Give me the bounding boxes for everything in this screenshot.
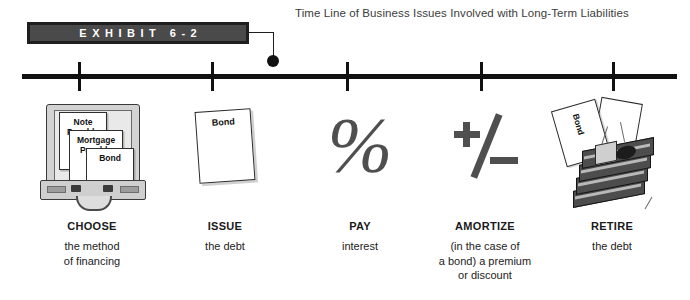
stage-choose: Note Payable Mortgage Payable Bond CHOOS… xyxy=(17,100,167,268)
stage-subtitle-issue: the debt xyxy=(150,239,300,254)
connector-line-vertical xyxy=(273,32,274,57)
stage-title-issue: ISSUE xyxy=(150,220,300,232)
torn-bond-with-cash-icon: Bond xyxy=(537,100,687,218)
page-title: Time Line of Business Issues Involved wi… xyxy=(295,7,629,19)
stage-title-choose: CHOOSE xyxy=(17,220,167,232)
stage-issue: Bond ISSUE the debt xyxy=(150,100,300,254)
doc-bond-label: Bond xyxy=(87,153,133,163)
bond-certificate-icon: Bond xyxy=(150,100,300,218)
briefcase-icon: Note Payable Mortgage Payable Bond xyxy=(17,100,167,218)
stage-subtitle-line: of financing xyxy=(17,254,167,269)
timeline-axis xyxy=(22,74,677,79)
stage-subtitle-line: the debt xyxy=(537,239,687,254)
stage-subtitle-line: the method xyxy=(17,239,167,254)
doc-note-line-1: Note xyxy=(60,117,106,127)
timeline-tick-4 xyxy=(480,62,483,91)
stage-subtitle-line: the debt xyxy=(150,239,300,254)
timeline-tick-1 xyxy=(78,62,81,91)
stage-title-retire: RETIRE xyxy=(537,220,687,232)
bond-certificate-label: Bond xyxy=(196,115,251,129)
connector-line-horizontal xyxy=(249,32,274,33)
exhibit-banner: EXHIBIT 6-2 xyxy=(27,22,249,44)
stage-subtitle-choose: the method of financing xyxy=(17,239,167,268)
stage-subtitle-line: or discount xyxy=(410,268,560,283)
briefcase-handle xyxy=(76,196,112,211)
timeline-tick-2 xyxy=(211,62,214,91)
stage-subtitle-line: a bond) a premium xyxy=(410,254,560,269)
torn-bond-label: Bond xyxy=(567,99,590,150)
doc-mortgage-line-1: Mortgage xyxy=(70,135,122,145)
stage-retire: Bond RETIRE the debt xyxy=(537,100,687,254)
timeline-tick-5 xyxy=(612,62,615,91)
exhibit-banner-label: EXHIBIT 6-2 xyxy=(74,27,202,39)
timeline-tick-3 xyxy=(346,62,349,91)
connector-dot-marker xyxy=(267,55,279,67)
stage-subtitle-retire: the debt xyxy=(537,239,687,254)
